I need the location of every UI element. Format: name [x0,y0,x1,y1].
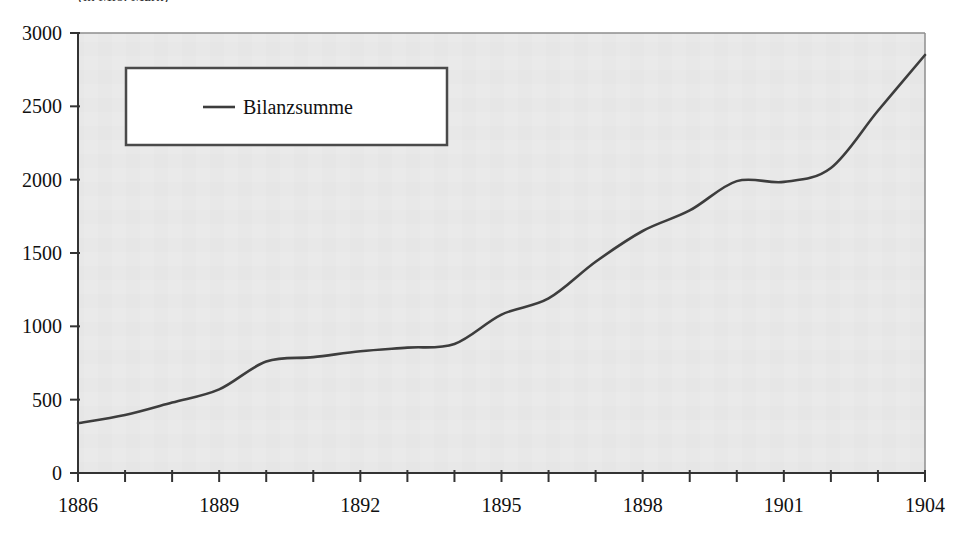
legend-box: Bilanzsumme [126,68,447,145]
x-tick-label: 1904 [905,494,945,516]
x-tick-label: 1895 [482,494,522,516]
y-axis-tick-labels: 050010001500200025003000 [22,22,62,484]
x-axis-tick-labels: 1886188918921895189819011904 [58,494,945,516]
x-tick-label: 1892 [340,494,380,516]
x-tick-label: 1889 [199,494,239,516]
x-tick-label: 1901 [764,494,804,516]
y-tick-label: 3000 [22,22,62,44]
chart-figure: (in Mio. Mark) 050010001500200025003000 … [0,0,957,540]
y-tick-label: 1000 [22,315,62,337]
y-tick-label: 0 [52,462,62,484]
y-tick-label: 1500 [22,242,62,264]
y-tick-label: 500 [32,389,62,411]
legend-label-bilanzsumme: Bilanzsumme [243,96,353,118]
y-tick-label: 2500 [22,95,62,117]
x-tick-label: 1898 [623,494,663,516]
line-chart-svg: 050010001500200025003000 188618891892189… [0,0,957,540]
y-tick-label: 2000 [22,169,62,191]
x-tick-label: 1886 [58,494,98,516]
